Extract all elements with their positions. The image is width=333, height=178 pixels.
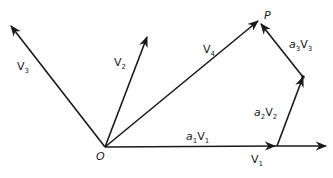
junction-point	[301, 75, 305, 79]
v1-label: V1	[251, 153, 263, 168]
point-p-label: P	[264, 9, 271, 22]
vector-diagram: O P V3 V2 V4 V1 a1V1 a2V2 a3V3	[0, 0, 333, 178]
a2v2-label: a2V2	[254, 106, 277, 121]
v4-label: V4	[203, 43, 216, 58]
a1v1-label: a1V1	[186, 130, 209, 145]
component-a2v2-arrow	[277, 77, 303, 146]
v3-label: V3	[17, 60, 29, 75]
vector-v4-arrow	[105, 21, 258, 147]
a3v3-label: a3V3	[289, 38, 312, 53]
component-a1v1-arrow	[105, 146, 275, 147]
origin-label: O	[96, 150, 105, 163]
v2-label: V2	[114, 56, 126, 71]
vector-v3-arrow	[11, 26, 105, 147]
